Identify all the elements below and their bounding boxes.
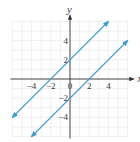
x-tick-label: 0 xyxy=(68,81,73,91)
axes xyxy=(10,15,133,138)
y-tick-label: 2 xyxy=(64,55,69,65)
x-tick-label: 4 xyxy=(106,81,111,91)
x-tick-label: −2 xyxy=(46,81,56,91)
y-axis-label: y xyxy=(66,3,72,15)
x-tick-label: −4 xyxy=(27,81,37,91)
x-tick-label: 2 xyxy=(87,81,92,91)
x-axis-label: x xyxy=(137,72,140,84)
y-tick-label: 4 xyxy=(64,36,69,46)
y-tick-label: −4 xyxy=(58,112,68,122)
y-tick-label: −2 xyxy=(58,93,68,103)
coordinate-plane: xy−4−202442−2−4 xyxy=(0,0,140,142)
